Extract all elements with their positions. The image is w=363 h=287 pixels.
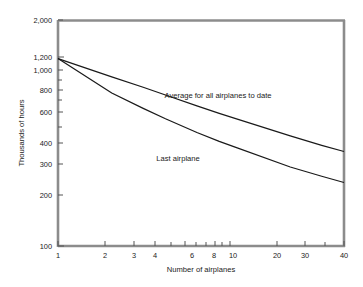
x-tick-2: 2 xyxy=(103,251,107,260)
y-tick-1200: 1,200 xyxy=(34,53,53,62)
learning-curve-chart: 2,000 1,200 1,000 800 600 400 300 200 10… xyxy=(0,0,363,287)
x-tick-3: 3 xyxy=(132,251,136,260)
x-axis-tick-labels: 1 2 3 4 6 8 10 20 30 40 xyxy=(56,251,348,260)
x-tick-1: 1 xyxy=(56,251,60,260)
y-tick-600: 600 xyxy=(40,108,52,117)
x-tick-8: 8 xyxy=(212,251,216,260)
x-tick-4: 4 xyxy=(153,251,157,260)
y-tick-2000: 2,000 xyxy=(34,16,53,25)
x-tick-10: 10 xyxy=(229,251,237,260)
series-annotation-last: Last airplane xyxy=(156,154,199,163)
data-series xyxy=(58,59,344,183)
x-axis-title: Number of airplanes xyxy=(167,265,236,274)
x-tick-6: 6 xyxy=(190,251,194,260)
series-line-average xyxy=(58,59,344,152)
chart-canvas: 2,000 1,200 1,000 800 600 400 300 200 10… xyxy=(0,0,363,287)
y-tick-1000: 1,000 xyxy=(34,66,53,75)
plot-frame xyxy=(58,20,345,247)
y-axis-title: Thousands of hours xyxy=(17,99,26,166)
x-tick-40: 40 xyxy=(340,251,348,260)
y-tick-400: 400 xyxy=(40,139,52,148)
x-tick-30: 30 xyxy=(301,251,309,260)
y-tick-800: 800 xyxy=(40,86,52,95)
x-tick-20: 20 xyxy=(273,251,281,260)
y-tick-300: 300 xyxy=(40,160,52,169)
y-tick-100: 100 xyxy=(40,242,52,251)
y-tick-200: 200 xyxy=(40,191,52,200)
y-axis-tick-labels: 2,000 1,200 1,000 800 600 400 300 200 10… xyxy=(34,16,53,251)
series-line-last xyxy=(58,59,344,183)
series-annotation-average: Average for all airplanes to date xyxy=(164,91,271,100)
